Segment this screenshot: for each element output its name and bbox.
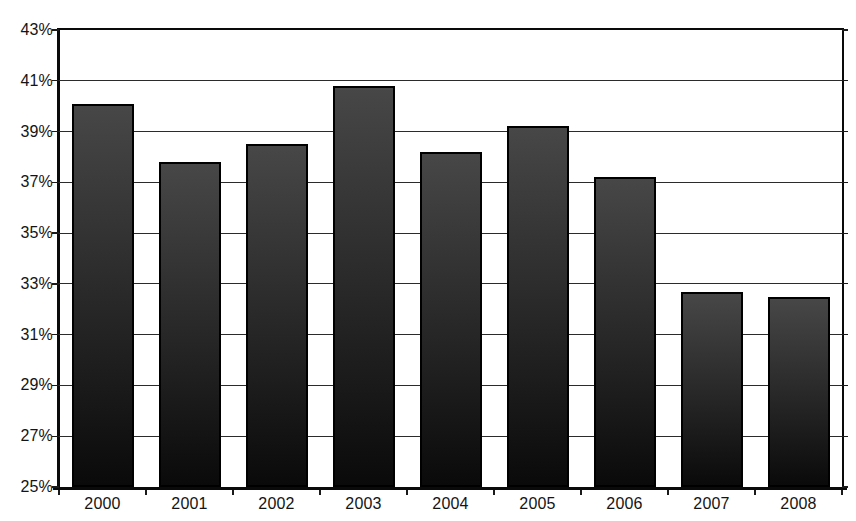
y-tick-label-31: 31% [0,325,53,345]
gridline-39 [59,131,842,132]
y-tick-39 [52,131,59,132]
y-tick-25 [52,486,59,487]
x-tick-label-2000: 2000 [59,494,146,514]
bar-2006 [594,177,656,487]
bar-2004 [420,152,482,487]
y-tick-37 [52,182,59,183]
x-axis-line [53,487,847,490]
right-tick-31 [842,334,848,335]
right-tick-27 [842,436,848,437]
right-tick-39 [842,131,848,132]
y-tick-27 [52,436,59,437]
right-tick-35 [842,233,848,234]
y-tick-33 [52,283,59,284]
bar-2001 [159,162,221,487]
y-tick-label-29: 29% [0,375,53,395]
y-tick-label-33: 33% [0,274,53,294]
x-tick-label-2007: 2007 [668,494,755,514]
y-tick-41 [52,80,59,81]
bar-chart-figure: 25%27%29%31%33%35%37%39%41%43% 200020012… [0,0,856,521]
plot-right-border [842,28,844,490]
x-tick-label-2006: 2006 [581,494,668,514]
y-tick-label-41: 41% [0,71,53,91]
bar-2007 [681,292,743,487]
right-tick-29 [842,385,848,386]
x-tick-label-2001: 2001 [146,494,233,514]
x-tick-label-2003: 2003 [320,494,407,514]
y-tick-label-43: 43% [0,20,53,40]
gridline-41 [59,80,842,81]
bar-2002 [246,144,308,487]
bar-2003 [333,86,395,487]
bar-2008 [768,297,830,487]
y-tick-35 [52,232,59,233]
y-tick-29 [52,385,59,386]
bar-2005 [507,126,569,487]
y-tick-label-35: 35% [0,223,53,243]
y-tick-31 [52,334,59,335]
right-tick-25 [842,486,848,487]
right-tick-41 [842,80,848,81]
y-tick-43 [52,29,59,30]
y-tick-label-37: 37% [0,172,53,192]
plot-area [59,30,842,487]
right-tick-43 [842,29,848,30]
y-tick-label-39: 39% [0,122,53,142]
x-tick-label-2002: 2002 [233,494,320,514]
y-tick-label-27: 27% [0,426,53,446]
y-tick-label-25: 25% [0,477,53,497]
x-tick-label-2004: 2004 [407,494,494,514]
x-tick-label-2005: 2005 [494,494,581,514]
bar-2000 [72,104,134,487]
right-tick-37 [842,182,848,183]
x-tick-label-2008: 2008 [755,494,842,514]
right-tick-33 [842,283,848,284]
